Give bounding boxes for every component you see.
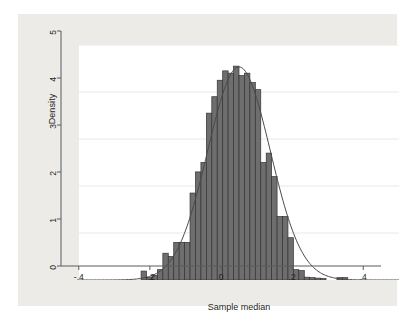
y-tick-label: 5 — [48, 30, 58, 52]
histogram-bar — [179, 242, 184, 280]
histogram-bar — [190, 193, 195, 280]
histogram-plot — [79, 45, 399, 280]
histogram-bar — [228, 73, 233, 280]
histogram-bar — [250, 83, 255, 280]
histogram-bar — [223, 71, 228, 280]
x-tick-label: 0 — [201, 272, 241, 282]
histogram-bar — [283, 217, 288, 280]
plot-area — [79, 45, 399, 280]
histogram-bar — [272, 177, 277, 280]
histogram-bar — [185, 242, 190, 280]
y-axis-label: Density — [47, 49, 57, 169]
histogram-bar — [201, 163, 206, 281]
x-tick-label: .4 — [343, 272, 383, 282]
x-tick-label: -.4 — [59, 272, 99, 282]
figure-root: Density 012345 -.4-.20.2.4 Sample median — [0, 0, 413, 322]
y-tick-label: 2 — [48, 171, 58, 193]
histogram-bar — [234, 66, 239, 280]
y-tick-label: 3 — [48, 124, 58, 146]
y-tick-label: 0 — [48, 265, 58, 287]
histogram-bar — [266, 153, 271, 280]
y-tick-label: 4 — [48, 77, 58, 99]
histogram-bar — [239, 76, 244, 280]
graph-region: Density 012345 -.4-.20.2.4 Sample median — [18, 14, 397, 306]
histogram-bar — [321, 279, 326, 280]
histogram-bar — [255, 90, 260, 280]
histogram-bars — [141, 66, 348, 280]
histogram-bar — [277, 217, 282, 280]
x-tick-label: -.2 — [130, 272, 170, 282]
y-tick-label: 1 — [48, 218, 58, 240]
x-tick-label: .2 — [272, 272, 312, 282]
histogram-bar — [315, 278, 320, 280]
histogram-bar — [244, 73, 249, 280]
x-axis-label: Sample median — [79, 302, 399, 312]
histogram-bar — [261, 163, 266, 281]
